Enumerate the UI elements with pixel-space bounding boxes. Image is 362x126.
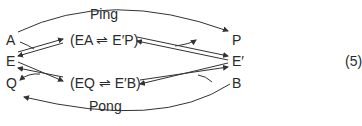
- node-Q: Q: [6, 76, 17, 90]
- node-B: B: [232, 76, 241, 90]
- ping-label: Ping: [90, 7, 118, 21]
- node-E: E: [6, 54, 15, 68]
- node-P: P: [232, 33, 241, 47]
- pong-label: Pong: [89, 99, 122, 113]
- equation-number: (5): [345, 54, 362, 68]
- node-A: A: [6, 33, 15, 47]
- complex-top: (EA ⇌ E′P): [70, 33, 138, 47]
- complex-bottom: (EQ ⇌ E′B): [70, 76, 141, 90]
- node-E-prime: E′: [232, 54, 244, 68]
- ping-arc: [18, 10, 228, 32]
